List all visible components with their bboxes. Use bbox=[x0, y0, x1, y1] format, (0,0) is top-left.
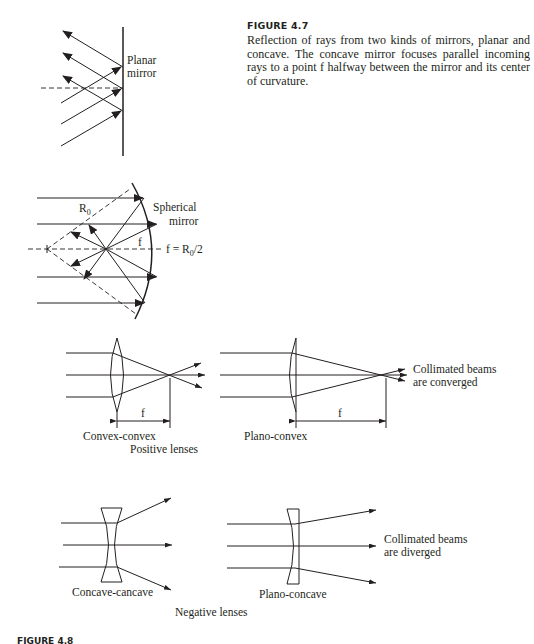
plano-convex-lens-diagram: f Plano-convex Collimated beams are conv… bbox=[220, 338, 497, 442]
plano-concave-label: Plano-concave bbox=[259, 588, 327, 600]
convex-convex-lens-diagram: f Convex-convex bbox=[66, 338, 205, 442]
diverged-note: Collimated beams bbox=[384, 533, 468, 545]
convex-convex-label: Convex-convex bbox=[83, 430, 156, 442]
refracted-ray bbox=[292, 353, 405, 381]
optics-diagram: Planar mirror R0 Spherical mirror f f = … bbox=[0, 0, 534, 644]
reflected-ray bbox=[106, 249, 157, 277]
reflected-ray bbox=[71, 249, 106, 266]
plano-convex-label: Plano-convex bbox=[244, 430, 307, 442]
reflected-ray bbox=[106, 224, 157, 249]
figure-4-7-caption: Reflection of rays from two kinds of mir… bbox=[247, 34, 530, 88]
diverging-ray bbox=[295, 568, 376, 583]
reflected-ray bbox=[106, 249, 145, 303]
planar-mirror-label: mirror bbox=[127, 67, 157, 79]
focal-relation-label: f = R0/2 bbox=[166, 243, 203, 258]
converged-note: Collimated beams bbox=[413, 363, 497, 375]
refracted-ray bbox=[123, 357, 202, 388]
reflected-ray bbox=[63, 31, 123, 67]
focal-length-label: f bbox=[338, 407, 342, 419]
converged-note: are converged bbox=[413, 376, 478, 389]
refracted-ray bbox=[292, 369, 405, 397]
concave-concave-lens-diagram: Concave-cancave bbox=[59, 498, 172, 598]
diverged-note: are diverged bbox=[384, 546, 441, 559]
figure-4-7-title: FIGURE 4.7 bbox=[247, 20, 308, 31]
concave-concave-label: Concave-cancave bbox=[72, 586, 153, 598]
negative-lenses-label: Negative lenses bbox=[175, 606, 248, 619]
diverging-ray bbox=[295, 510, 376, 524]
radius-line bbox=[47, 249, 136, 314]
diverging-ray bbox=[117, 498, 171, 523]
spherical-mirror-label: mirror bbox=[169, 215, 199, 227]
reflected-ray bbox=[84, 249, 106, 279]
planar-mirror-diagram: Planar mirror bbox=[41, 27, 157, 156]
incident-ray bbox=[61, 67, 121, 103]
positive-lenses-label: Positive lenses bbox=[130, 443, 199, 455]
radius-label: R0 bbox=[79, 202, 91, 217]
focal-length-label: f bbox=[141, 407, 145, 419]
plano-concave-lens-diagram: Plano-concave Collimated beams are diver… bbox=[227, 509, 468, 600]
reflected-ray bbox=[71, 232, 106, 249]
incident-ray bbox=[61, 89, 121, 124]
focal-length-label: f bbox=[138, 236, 142, 248]
planar-mirror-label: Planar bbox=[127, 54, 157, 66]
refracted-ray bbox=[123, 363, 201, 393]
incident-ray bbox=[61, 111, 121, 146]
spherical-mirror-label: Spherical bbox=[153, 201, 196, 214]
spherical-mirror-diagram: R0 Spherical mirror f f = R0/2 bbox=[28, 183, 203, 319]
figure-4-8-title: FIGURE 4.8 bbox=[17, 636, 73, 644]
